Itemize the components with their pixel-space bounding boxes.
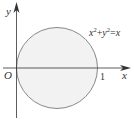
origin-label: O xyxy=(4,69,12,81)
x-axis-label: x xyxy=(121,69,127,81)
y-axis-label: y xyxy=(5,5,11,17)
equation-label: x2+y2=x xyxy=(88,26,121,38)
coordinate-diagram: y O 1 x x2+y2=x xyxy=(0,0,134,122)
eq-rhs: x xyxy=(115,27,121,38)
x-tick-label-1: 1 xyxy=(100,71,105,82)
